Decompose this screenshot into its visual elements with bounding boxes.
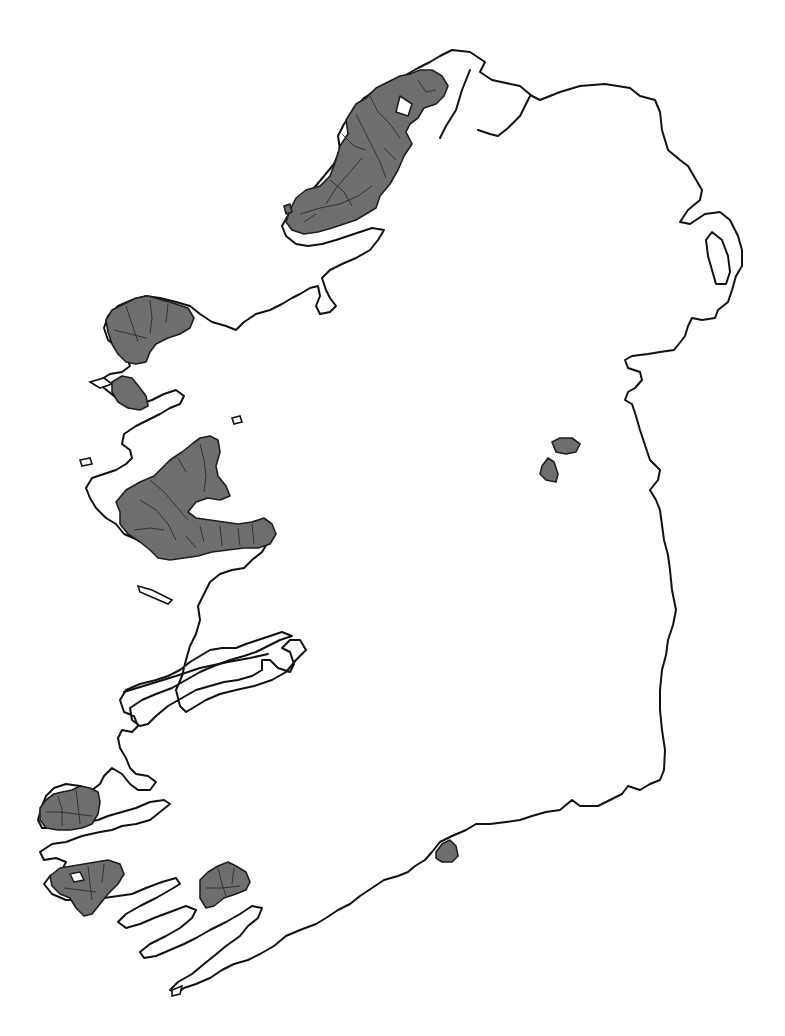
gaeltacht-donegal [286, 70, 448, 234]
island-inishbofin [80, 458, 92, 466]
strangford-lough [706, 232, 730, 284]
ireland-map [0, 0, 785, 1036]
lough-foyle-inlet [478, 96, 530, 136]
gaeltacht-meath [540, 438, 580, 482]
island-clare [90, 378, 112, 388]
gaeltacht-galway [116, 436, 276, 560]
gaeltacht-mayo-north [106, 296, 194, 364]
island-aran [138, 586, 172, 604]
gaeltacht-cork [200, 862, 250, 908]
shannon-estuary [124, 654, 268, 692]
island-achill-small [232, 416, 242, 424]
gaeltacht-kerry-iveragh [50, 860, 124, 916]
gaeltacht-mayo-achill [112, 376, 148, 410]
gaeltacht-island-arranmore [284, 204, 292, 214]
map-canvas [0, 0, 785, 1036]
